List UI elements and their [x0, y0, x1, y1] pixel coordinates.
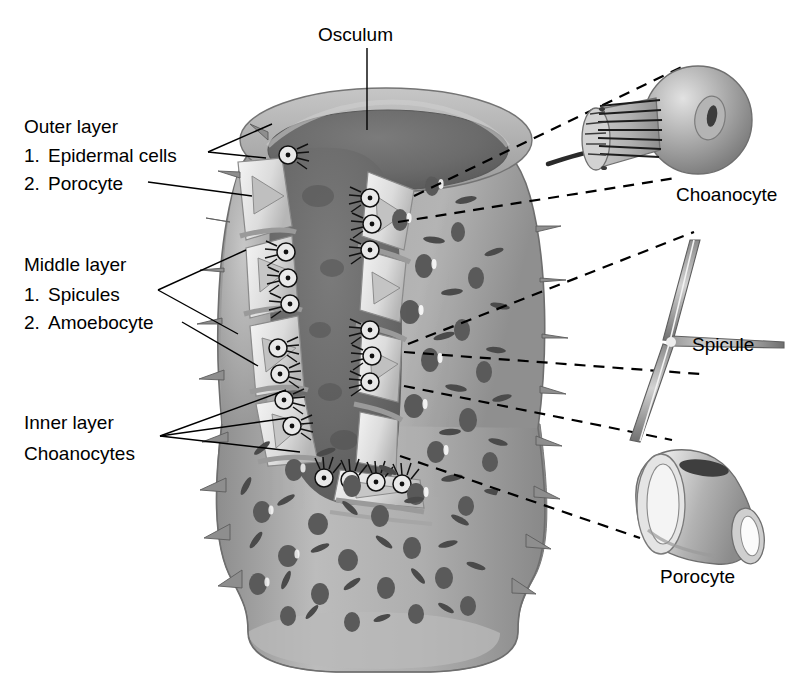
porocyte-detail-illustration: [636, 450, 768, 566]
label-osculum: Osculum: [318, 24, 393, 45]
label-callout-choanocyte: Choanocyte: [676, 184, 777, 205]
label-amoebocyte: Amoebocyte: [48, 312, 154, 333]
spicule-ray-lower: [630, 344, 673, 442]
label-middle-item-2-number: 2.: [24, 312, 40, 333]
spicule-center: [666, 337, 676, 347]
label-choanocytes: Choanocytes: [24, 443, 135, 464]
collar-pore-bottom: [601, 166, 607, 170]
sponge-body-illustration: [197, 88, 568, 672]
diagram-canvas: Osculum Outer layer 1. Epidermal cells 2…: [0, 0, 807, 693]
label-inner-layer-heading: Inner layer: [24, 412, 114, 433]
label-porocyte-body: Porocyte: [48, 173, 123, 194]
label-middle-layer-heading: Middle layer: [24, 254, 127, 275]
label-outer-item-2-number: 2.: [24, 173, 40, 194]
collar-pore-top: [599, 107, 605, 111]
label-callout-spicule: Spicule: [692, 334, 754, 355]
label-outer-layer-heading: Outer layer: [24, 116, 119, 137]
label-middle-item-1-number: 1.: [24, 284, 40, 305]
label-spicules: Spicules: [48, 284, 120, 305]
label-callout-porocyte: Porocyte: [660, 566, 735, 587]
choanocyte-detail-illustration: [548, 66, 752, 174]
label-epidermal-cells: Epidermal cells: [48, 145, 177, 166]
label-outer-item-1-number: 1.: [24, 145, 40, 166]
sponge-anatomy-figure: Osculum Outer layer 1. Epidermal cells 2…: [0, 0, 807, 693]
